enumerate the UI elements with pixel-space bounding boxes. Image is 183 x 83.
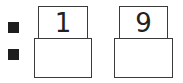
bullet-marker-1 — [8, 22, 19, 33]
digit-box-left-top: 1 — [38, 6, 88, 40]
bullet-marker-2 — [8, 49, 19, 60]
answer-box-left-bottom[interactable] — [34, 38, 92, 78]
digit-box-right-top: 9 — [119, 6, 168, 40]
answer-box-right-bottom[interactable] — [114, 38, 173, 78]
